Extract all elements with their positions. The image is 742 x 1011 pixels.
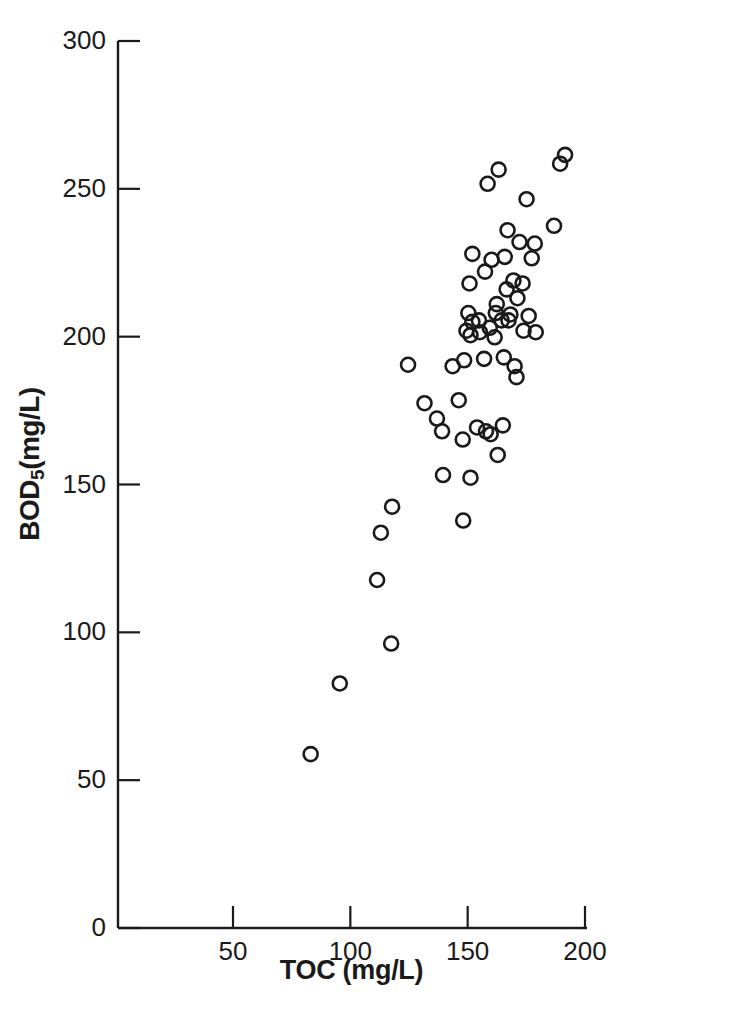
data-point — [456, 433, 470, 447]
data-point — [333, 676, 347, 690]
x-axis-ticks — [233, 906, 585, 928]
y-axis-ticks — [118, 41, 140, 928]
data-point-markers — [304, 148, 572, 761]
data-point — [490, 297, 504, 311]
data-point — [513, 235, 527, 249]
data-point — [496, 418, 510, 432]
data-point — [510, 291, 524, 305]
data-point — [456, 514, 470, 528]
scatter-figure: BOD5(mg/L) TOC (mg/L) 050100150200250300… — [0, 0, 742, 1011]
data-point — [435, 424, 449, 438]
cropped-caption-sliver — [8, 997, 568, 1008]
data-point — [436, 468, 450, 482]
data-point — [417, 396, 431, 410]
data-point — [522, 309, 536, 323]
data-point — [484, 427, 498, 441]
data-point — [492, 163, 506, 177]
data-point — [528, 237, 542, 251]
data-point — [491, 448, 505, 462]
plot-canvas — [0, 0, 742, 1011]
data-point — [457, 353, 471, 367]
data-point — [463, 471, 477, 485]
data-point — [452, 393, 466, 407]
data-point — [470, 420, 484, 434]
data-point — [525, 251, 539, 265]
data-point — [477, 352, 491, 366]
axis-lines — [118, 41, 587, 928]
data-point — [547, 219, 561, 233]
data-point — [516, 276, 530, 290]
data-point — [481, 177, 495, 191]
data-point — [385, 500, 399, 514]
data-point — [498, 250, 512, 264]
data-point — [520, 192, 534, 206]
data-point — [485, 253, 499, 267]
data-point — [304, 747, 318, 761]
data-point — [370, 573, 384, 587]
data-point — [465, 247, 479, 261]
data-point — [374, 526, 388, 540]
data-point — [384, 637, 398, 651]
data-point — [501, 223, 515, 237]
data-point — [401, 358, 415, 372]
data-point — [463, 276, 477, 290]
